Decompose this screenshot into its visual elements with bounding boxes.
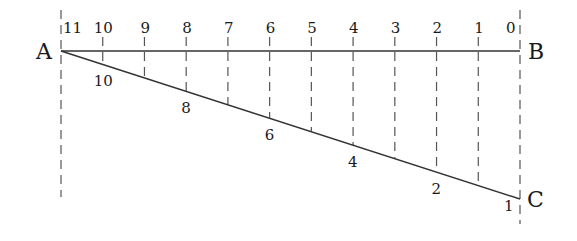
division-diagram: 11109876543210 1086421 A B C xyxy=(0,0,577,241)
bottom-scale-label: 2 xyxy=(432,180,442,198)
top-scale-label: 4 xyxy=(349,19,359,37)
dashed-verticals xyxy=(61,10,520,224)
point-a-label: A xyxy=(35,39,53,64)
top-scale-label: 5 xyxy=(307,19,317,37)
top-scale-label: 6 xyxy=(266,19,276,37)
bottom-scale-labels: 1086421 xyxy=(94,72,514,215)
top-scale-label: 8 xyxy=(182,19,192,37)
bottom-scale-label: 4 xyxy=(348,153,358,171)
top-scale-label: 1 xyxy=(474,19,484,37)
point-b-label: B xyxy=(528,39,544,64)
top-scale-label: 3 xyxy=(391,19,401,37)
top-scale-label: 9 xyxy=(140,19,150,37)
top-scale-labels: 11109876543210 xyxy=(63,19,516,37)
bottom-scale-label: 1 xyxy=(504,197,514,215)
top-scale-label: 10 xyxy=(94,19,113,37)
top-scale-label: 2 xyxy=(433,19,443,37)
top-scale-label: 0 xyxy=(506,19,516,37)
line-ac xyxy=(61,51,520,199)
bottom-scale-label: 10 xyxy=(94,72,113,90)
top-scale-label: 11 xyxy=(63,19,82,37)
top-scale-label: 7 xyxy=(224,19,234,37)
bottom-scale-label: 8 xyxy=(181,99,191,117)
point-c-label: C xyxy=(527,187,544,212)
bottom-scale-label: 6 xyxy=(265,126,275,144)
